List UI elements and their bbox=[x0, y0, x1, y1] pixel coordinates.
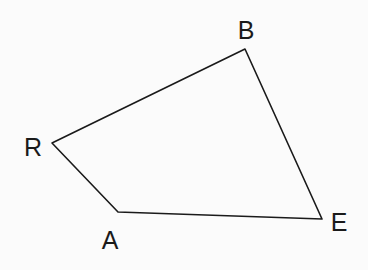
vertex-label-a: A bbox=[102, 228, 119, 253]
vertex-label-b: B bbox=[238, 18, 255, 43]
quadrilateral-shape bbox=[0, 0, 368, 270]
quadrilateral-rbea bbox=[52, 49, 322, 219]
diagram-canvas: B E A R bbox=[0, 0, 368, 270]
vertex-label-e: E bbox=[331, 210, 348, 235]
vertex-label-r: R bbox=[24, 135, 42, 160]
